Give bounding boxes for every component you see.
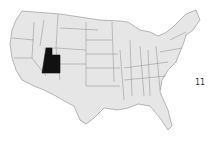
us-land bbox=[10, 10, 200, 130]
side-label: 11 bbox=[195, 78, 205, 87]
us-map bbox=[0, 0, 211, 142]
